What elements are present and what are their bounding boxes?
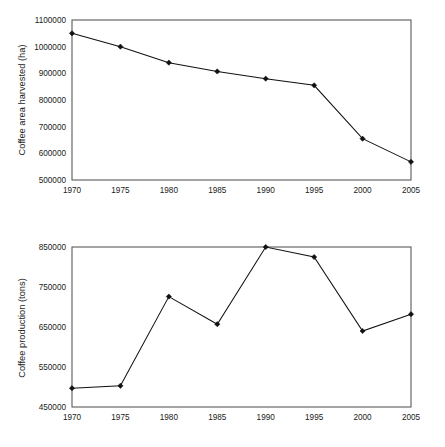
data-point-marker (408, 312, 413, 317)
data-point-marker (166, 60, 171, 65)
x-tick-label: 1995 (305, 413, 324, 422)
data-point-marker (118, 44, 123, 49)
y-tick-label: 650000 (39, 323, 67, 332)
y-axis-title: Coffee area harvested (ha) (17, 45, 27, 156)
chart-page: Coffee area harvested (ha) 5000006000007… (0, 0, 445, 447)
coffee-area-svg: Coffee area harvested (ha) 5000006000007… (0, 0, 445, 205)
data-point-marker (118, 383, 123, 388)
series-markers-area (69, 31, 413, 165)
y-tick-label: 1000000 (34, 43, 66, 52)
x-tick-label: 2000 (353, 186, 372, 195)
x-tick-label: 2005 (402, 186, 421, 195)
y-tick-label: 850000 (39, 243, 67, 252)
x-tick-label: 1990 (257, 413, 276, 422)
y-tick-label: 450000 (39, 403, 67, 412)
coffee-production-svg: Coffee production (tons) 450000550000650… (0, 228, 445, 447)
data-point-marker (69, 386, 74, 391)
data-point-marker (215, 322, 220, 327)
x-tick-label: 1975 (111, 186, 130, 195)
y-tick-label: 700000 (39, 123, 67, 132)
y-tick-label: 600000 (39, 149, 67, 158)
data-point-marker (69, 31, 74, 36)
x-tick-label: 1970 (63, 186, 82, 195)
plot-frame (72, 20, 411, 180)
x-tick-label: 2000 (353, 413, 372, 422)
data-point-marker (166, 294, 171, 299)
data-point-marker (263, 76, 268, 81)
series-line-area (72, 33, 411, 162)
y-tick-label: 550000 (39, 363, 67, 372)
series-line-production (72, 247, 411, 388)
y-axis-title-group: Coffee area harvested (ha) (17, 45, 27, 156)
x-tick-label: 1985 (208, 413, 227, 422)
data-point-marker (263, 244, 268, 249)
y-tick-label: 750000 (39, 283, 67, 292)
x-axis-ticks: 19701975198019851990199520002005 (63, 186, 421, 195)
y-axis-title: Coffee production (tons) (17, 278, 27, 378)
chart-coffee-production: Coffee production (tons) 450000550000650… (0, 228, 445, 447)
y-axis-title-group: Coffee production (tons) (17, 278, 27, 378)
y-axis-ticks: 5000006000007000008000009000001000000110… (34, 16, 66, 185)
x-tick-label: 2005 (402, 413, 421, 422)
y-axis-ticks: 450000550000650000750000850000 (39, 243, 67, 412)
chart-coffee-area-harvested: Coffee area harvested (ha) 5000006000007… (0, 0, 445, 205)
data-point-marker (215, 69, 220, 74)
data-point-marker (312, 254, 317, 259)
x-tick-label: 1995 (305, 186, 324, 195)
y-tick-label: 1100000 (35, 16, 67, 25)
data-point-marker (360, 328, 365, 333)
x-tick-label: 1990 (257, 186, 276, 195)
data-point-marker (408, 159, 413, 164)
y-tick-label: 500000 (39, 176, 67, 185)
series-markers-production (69, 244, 413, 390)
x-tick-label: 1980 (160, 413, 179, 422)
x-tick-label: 1985 (208, 186, 227, 195)
y-tick-label: 800000 (39, 96, 67, 105)
x-tick-label: 1970 (63, 413, 82, 422)
x-tick-label: 1975 (111, 413, 130, 422)
y-tick-label: 900000 (39, 69, 67, 78)
x-axis-ticks: 19701975198019851990199520002005 (63, 413, 421, 422)
x-tick-label: 1980 (160, 186, 179, 195)
